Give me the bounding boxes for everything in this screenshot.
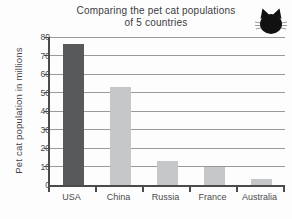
y-tick-label-20: 20: [30, 143, 50, 153]
gridline-70: [50, 55, 285, 56]
bar-russia: [157, 161, 178, 185]
x-category-label-china: China: [95, 192, 142, 202]
y-tick-label-30: 30: [30, 125, 50, 135]
chart-title-line2: of 5 countries: [40, 17, 272, 29]
y-tick-label-60: 60: [30, 69, 50, 79]
y-tick-label-70: 70: [30, 51, 50, 61]
bar-china: [110, 87, 131, 185]
x-tick-5: [283, 187, 285, 192]
y-tick-label-40: 40: [30, 106, 50, 116]
y-tick-label-80: 80: [30, 32, 50, 42]
gridline-20: [50, 148, 285, 149]
chart-title: Comparing the pet cat populations of 5 c…: [40, 5, 272, 28]
y-tick-label-10: 10: [30, 162, 50, 172]
bar-france: [204, 167, 225, 186]
y-tick-label-50: 50: [30, 88, 50, 98]
x-category-label-australia: Australia: [236, 192, 283, 202]
y-tick-label-0: 0: [30, 180, 50, 190]
bar-australia: [251, 179, 272, 185]
x-category-label-russia: Russia: [142, 192, 189, 202]
plot-area: [48, 37, 285, 187]
y-axis-title: Pet cat population in millions: [13, 31, 24, 191]
gridline-50: [50, 92, 285, 93]
bar-usa: [63, 44, 84, 185]
gridline-40: [50, 111, 285, 112]
gridline-30: [50, 129, 285, 130]
x-category-label-usa: USA: [48, 192, 95, 202]
chart-screenshot: Comparing the pet cat populations of 5 c…: [0, 0, 292, 219]
gridline-60: [50, 74, 285, 75]
gridline-80: [50, 37, 285, 38]
x-category-label-france: France: [189, 192, 236, 202]
chart-title-line1: Comparing the pet cat populations: [40, 5, 272, 17]
